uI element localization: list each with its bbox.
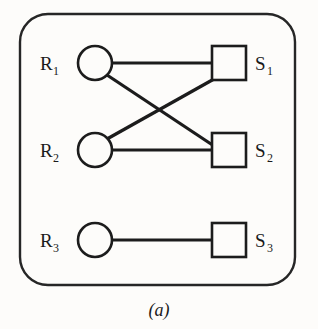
- label-s3: S: [255, 230, 266, 251]
- figure-caption: (a): [149, 300, 170, 321]
- node-square-s2[interactable]: [212, 133, 246, 167]
- edge-group: [107, 63, 214, 240]
- site-label-group: S 1 S 2 S 3: [255, 53, 273, 255]
- resource-node-group: [78, 46, 112, 257]
- label-r1: R: [40, 53, 53, 74]
- label-r3: R: [40, 230, 53, 251]
- site-node-group: [212, 46, 246, 257]
- label-s1-subscript: 1: [267, 64, 273, 78]
- label-r2-subscript: 2: [53, 151, 59, 165]
- node-square-s3[interactable]: [212, 223, 246, 257]
- node-square-s1[interactable]: [212, 46, 246, 80]
- edge-r2-s1: [107, 79, 214, 139]
- label-r1-subscript: 1: [53, 64, 59, 78]
- label-r3-subscript: 3: [53, 241, 59, 255]
- label-r2: R: [40, 140, 53, 161]
- figure-canvas: R 1 R 2 R 3 S 1 S 2 S 3 (a): [0, 0, 318, 329]
- node-circle-r2[interactable]: [78, 133, 112, 167]
- resource-label-group: R 1 R 2 R 3: [40, 53, 59, 255]
- label-s3-subscript: 3: [267, 241, 273, 255]
- label-s2: S: [255, 140, 266, 161]
- label-s1: S: [255, 53, 266, 74]
- label-s2-subscript: 2: [267, 151, 273, 165]
- node-circle-r1[interactable]: [78, 46, 112, 80]
- bipartite-graph-diagram: R 1 R 2 R 3 S 1 S 2 S 3 (a): [0, 0, 318, 329]
- node-circle-r3[interactable]: [78, 223, 112, 257]
